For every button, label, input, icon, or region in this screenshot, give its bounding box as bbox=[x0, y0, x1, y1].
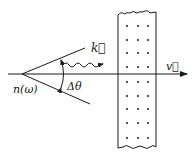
angle-label: Δθ bbox=[66, 80, 82, 93]
photon-wave-arrow-icon bbox=[63, 63, 103, 67]
slab-dots bbox=[126, 25, 149, 139]
refractive-index-label: n(ω) bbox=[13, 83, 38, 96]
diagram-canvas: k⃗ Δθ n(ω) v⃗ bbox=[0, 0, 194, 158]
cone-upper-line bbox=[22, 48, 85, 74]
velocity-label: v⃗ bbox=[166, 60, 179, 73]
medium-slab bbox=[118, 11, 156, 149]
slab-outline bbox=[118, 11, 156, 149]
wave-vector-label: k⃗ bbox=[91, 41, 105, 55]
